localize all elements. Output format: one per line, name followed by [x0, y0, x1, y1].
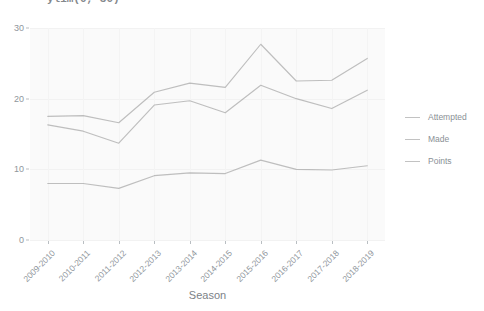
y-tick-label: 20: [14, 94, 24, 104]
y-tick-mark: [26, 240, 29, 241]
legend-swatch-icon: [404, 112, 421, 123]
x-tick-mark: [48, 241, 49, 244]
x-tick-mark: [225, 241, 226, 244]
chart-legend: AttemptedMadePoints: [404, 106, 484, 172]
x-tick-mark: [261, 241, 262, 244]
y-tick-label: 30: [14, 23, 24, 33]
x-tick-mark: [83, 241, 84, 244]
y-tick-label: 0: [19, 235, 24, 245]
legend-item-made[interactable]: Made: [404, 128, 484, 150]
x-axis-title: Season: [0, 289, 415, 301]
y-tick-mark: [26, 169, 29, 170]
y-tick-label: 10: [14, 164, 24, 174]
legend-label: Points: [428, 156, 452, 166]
plot-panel: [30, 28, 385, 240]
legend-item-attempted[interactable]: Attempted: [404, 106, 484, 128]
x-tick-mark: [190, 241, 191, 244]
series-line-made: [48, 85, 368, 143]
x-tick-mark: [296, 241, 297, 244]
legend-label: Made: [428, 134, 449, 144]
y-axis: 0102030: [0, 28, 24, 240]
line-chart: 0102030 2009-20102010-20112011-20122012-…: [0, 0, 484, 311]
x-tick-mark: [332, 241, 333, 244]
legend-swatch-icon: [404, 156, 421, 167]
series-line-attempted: [48, 44, 368, 122]
series-lines: [30, 28, 385, 240]
x-tick-mark: [367, 241, 368, 244]
x-tick-mark: [119, 241, 120, 244]
legend-label: Attempted: [428, 112, 467, 122]
legend-swatch-icon: [404, 134, 421, 145]
x-tick-mark: [154, 241, 155, 244]
y-tick-mark: [26, 28, 29, 29]
y-tick-mark: [26, 98, 29, 99]
legend-item-points[interactable]: Points: [404, 150, 484, 172]
series-line-points: [48, 160, 368, 188]
